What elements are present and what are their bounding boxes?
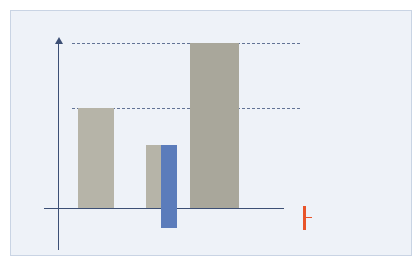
legend bbox=[293, 92, 420, 96]
y-axis-arrow-icon bbox=[55, 37, 63, 44]
bar-bodenwert-nach-entwicklung bbox=[190, 43, 239, 208]
plot-area bbox=[10, 10, 410, 254]
bar-bodenwert-alte-vornutzung bbox=[78, 108, 114, 208]
bar-brache-grundstueckswert-blue bbox=[161, 145, 177, 228]
bar-entwicklungskosten-stacked bbox=[247, 43, 281, 228]
chart-screenshot bbox=[0, 0, 420, 264]
y-axis-line bbox=[58, 40, 59, 250]
foerderbedarf-leader-line bbox=[306, 217, 312, 218]
